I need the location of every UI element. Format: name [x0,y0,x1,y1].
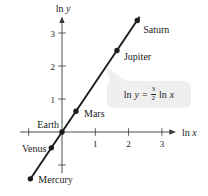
data-point-saturn [135,18,140,23]
equation-annotation: lny=32lnx [107,81,191,108]
x-tick-label: 3 [160,139,165,149]
y-axis-arrowhead [59,17,64,24]
equation-rhs-variable: x [170,89,174,100]
equation-fraction: 32 [151,86,157,102]
y-tick-label: 2 [51,62,56,72]
point-label-mars: Mars [84,108,105,119]
fraction-numerator: 3 [151,86,157,94]
equation-lhs-ln: ln [124,89,132,100]
fraction-denominator: 2 [151,94,157,103]
y-tick-label: 1 [51,95,56,105]
equation-lhs-variable: y [134,89,138,100]
equation-rhs-ln: ln [159,89,167,100]
equation-equals-sign: = [142,89,148,100]
data-point-earth [59,129,64,134]
y-tick-label: 3 [51,29,56,39]
x-axis-arrowhead [169,129,176,134]
point-label-earth: Earth [37,119,59,130]
y-axis-label: ln y [56,3,71,14]
point-label-mercury: Mercury [38,174,72,185]
point-label-venus: Venus [22,143,47,154]
point-label-jupiter: Jupiter [124,51,152,62]
data-point-mercury [28,176,33,181]
kepler-loglog-figure: 123123ln xln yMercuryVenusEarthMarsJupit… [0,0,208,196]
x-axis-label: ln x [182,127,197,138]
point-label-saturn: Saturn [143,24,169,35]
data-point-venus [49,145,54,150]
x-tick-label: 1 [93,139,98,149]
data-point-mars [73,109,78,114]
data-point-jupiter [114,48,119,53]
x-tick-label: 2 [126,139,131,149]
